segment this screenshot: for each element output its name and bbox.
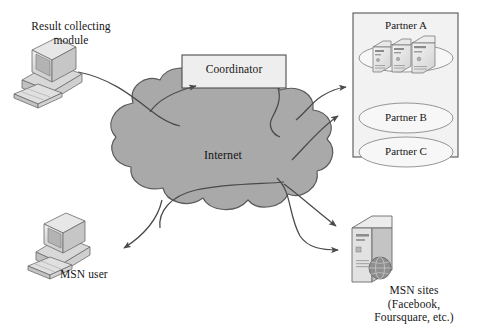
coordinator-label: Coordinator <box>186 63 282 77</box>
server-icon <box>392 39 411 72</box>
result-collecting-module-label: Result collecting module <box>6 20 136 47</box>
globe-icon <box>369 257 391 279</box>
msn-sites-label: MSN sites (Facebook, Foursquare, etc.) <box>352 284 476 325</box>
result-module-computer-icon <box>14 38 82 108</box>
internet-label: Internet <box>168 148 278 162</box>
partner-box <box>353 13 458 167</box>
network-architecture-diagram: Result collecting module Coordinator Int… <box>0 0 480 334</box>
msn-user-label: MSN user <box>60 268 150 282</box>
server-icon <box>373 41 391 72</box>
msn-sites-server-icon <box>352 216 392 282</box>
partner-b-label: Partner B <box>351 111 461 123</box>
partner-a-label: Partner A <box>351 19 461 31</box>
server-icon <box>412 36 435 73</box>
arrow-cloud-to-msn-user <box>124 200 162 248</box>
partner-c-label: Partner C <box>351 145 461 157</box>
partner-a-servers <box>373 36 435 73</box>
